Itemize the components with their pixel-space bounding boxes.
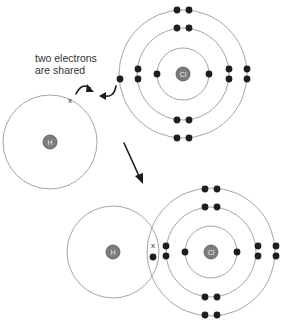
electron <box>202 294 209 301</box>
electron <box>214 312 221 319</box>
shared-electron-chlorine <box>150 254 157 261</box>
electron <box>186 7 193 14</box>
electron <box>255 253 262 260</box>
electron <box>182 249 189 256</box>
electron <box>255 243 262 250</box>
arrow-down-right-icon <box>124 143 143 184</box>
hydrogen-electron-x: x <box>68 96 72 105</box>
electron <box>214 186 221 193</box>
electron <box>244 66 251 73</box>
chlorine-atom-after: Cl <box>147 186 279 319</box>
shared-electrons-caption: two electrons are shared <box>35 52 97 76</box>
hcl-covalent-bond-diagram: H x Cl <box>0 0 288 322</box>
electron <box>202 186 209 193</box>
electron <box>234 249 241 256</box>
electron <box>202 204 209 211</box>
electron <box>226 66 233 73</box>
electron <box>214 204 221 211</box>
electron <box>135 66 142 73</box>
curved-arrow-icon <box>76 84 94 94</box>
electron <box>135 76 142 83</box>
electron <box>186 117 193 124</box>
electron <box>273 253 280 260</box>
hydrogen-label: H <box>47 139 52 146</box>
chlorine-label: Cl <box>208 249 215 256</box>
electron <box>214 294 221 301</box>
shared-electron-hydrogen-x: x <box>151 241 155 250</box>
electron <box>186 25 193 32</box>
electron <box>174 135 181 142</box>
caption-line-1: two electrons <box>35 52 97 64</box>
electron <box>186 135 193 142</box>
chlorine-label: Cl <box>180 71 187 78</box>
electron <box>163 253 170 260</box>
hydrogen-atom-before: H x <box>3 95 97 189</box>
electron <box>154 71 161 78</box>
electron <box>226 76 233 83</box>
electron <box>174 7 181 14</box>
curved-arrow-icon <box>99 86 116 100</box>
electron <box>273 243 280 250</box>
unpaired-electron <box>117 76 124 83</box>
electron <box>202 312 209 319</box>
chlorine-atom-before: Cl <box>117 7 251 142</box>
caption-line-2: are shared <box>35 64 97 76</box>
electron <box>163 243 170 250</box>
electron <box>206 71 213 78</box>
electron <box>244 76 251 83</box>
electron <box>174 117 181 124</box>
hydrogen-label: H <box>110 249 115 256</box>
hydrogen-atom-after: H <box>67 206 159 298</box>
electron <box>174 25 181 32</box>
